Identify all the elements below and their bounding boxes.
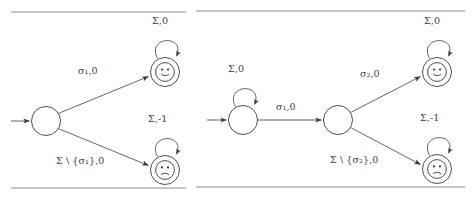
initial-state — [32, 107, 61, 136]
transition-sigma1 — [58, 77, 148, 114]
self-loop-happy — [427, 41, 450, 59]
self-loop-initial — [233, 89, 256, 107]
accepting-state-sad — [151, 156, 180, 185]
label-right-transition-sigma2-complement: Σ \ {σ₂},0 — [330, 155, 378, 165]
automata-figure: Σ,0 Σ,-1 σ₁,0 Σ \ {σ₁},0 Σ,0 Σ,0 Σ,-1 σ₁… — [0, 0, 474, 198]
transition-sigma2 — [351, 77, 421, 113]
self-loop-happy — [155, 41, 178, 59]
label-right-transition-sigma1: σ₁,0 — [276, 102, 296, 112]
initial-state — [229, 106, 258, 135]
self-loop-sad — [427, 138, 450, 156]
label-left-self-loop-sad: Σ,-1 — [148, 114, 167, 124]
label-left-transition-sigma-complement: Σ \ {σ₁},0 — [56, 156, 104, 166]
label-left-transition-sigma1: σ₁,0 — [78, 66, 98, 76]
accepting-state-sad — [423, 155, 452, 184]
label-right-self-loop-sad: Σ,-1 — [420, 113, 439, 123]
accepting-state-happy — [423, 58, 452, 87]
label-right-transition-sigma2: σ₂,0 — [360, 69, 380, 79]
self-loop-sad — [155, 139, 178, 157]
label-right-self-loop-happy: Σ,0 — [424, 16, 440, 26]
intermediate-state — [324, 106, 353, 135]
label-left-self-loop-happy: Σ,0 — [152, 16, 168, 26]
label-right-self-loop-initial: Σ,0 — [228, 64, 244, 74]
diagram-canvas — [0, 0, 474, 198]
accepting-state-happy — [151, 58, 180, 87]
